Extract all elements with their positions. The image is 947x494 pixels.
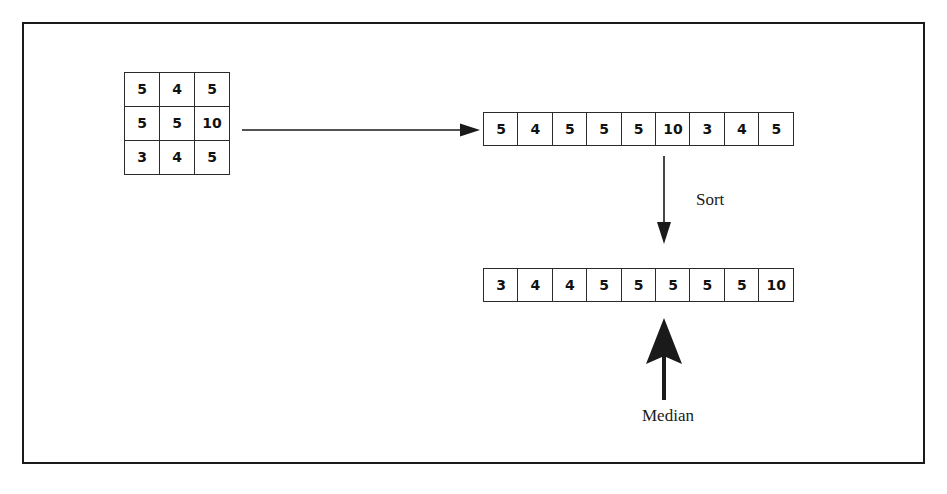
sorted-array: 3 4 4 5 5 5 5 5 10	[483, 268, 794, 302]
array-cell: 10	[758, 268, 794, 302]
array-cell: 5	[689, 268, 725, 302]
matrix-cell: 3	[125, 141, 160, 175]
sort-label: Sort	[696, 190, 724, 210]
figure-frame: 5 4 5 5 5 10 3 4 5 5 4 5 5 5 10 3	[22, 22, 925, 464]
arrow-right-icon	[242, 120, 480, 140]
matrix-cell: 5	[160, 107, 195, 141]
source-matrix: 5 4 5 5 5 10 3 4 5	[124, 72, 230, 175]
array-cell: 3	[689, 112, 725, 146]
arrow-up-thick-icon	[642, 318, 686, 400]
array-cell: 4	[724, 112, 760, 146]
arrow-down-icon	[654, 156, 674, 244]
matrix-cell: 5	[195, 141, 230, 175]
array-cell: 4	[552, 268, 588, 302]
array-cell: 5	[621, 112, 657, 146]
matrix-cell: 5	[125, 107, 160, 141]
array-cell: 5	[552, 112, 588, 146]
array-cell: 5	[758, 112, 794, 146]
array-cell: 4	[517, 112, 553, 146]
array-cell: 5	[586, 268, 622, 302]
matrix-cell: 10	[195, 107, 230, 141]
matrix-cell: 5	[125, 73, 160, 107]
matrix-row: 5 4 5	[125, 73, 230, 107]
array-cell: 5	[483, 112, 519, 146]
array-cell: 5	[586, 112, 622, 146]
matrix-row: 3 4 5	[125, 141, 230, 175]
matrix-cell: 4	[160, 73, 195, 107]
unsorted-array: 5 4 5 5 5 10 3 4 5	[483, 112, 794, 146]
array-cell: 10	[655, 112, 691, 146]
array-cell-median: 5	[621, 268, 657, 302]
array-cell: 5	[724, 268, 760, 302]
median-label: Median	[642, 406, 694, 426]
matrix-cell: 4	[160, 141, 195, 175]
array-cell: 4	[517, 268, 553, 302]
matrix-row: 5 5 10	[125, 107, 230, 141]
array-cell: 5	[655, 268, 691, 302]
matrix-cell: 5	[195, 73, 230, 107]
array-cell: 3	[483, 268, 519, 302]
